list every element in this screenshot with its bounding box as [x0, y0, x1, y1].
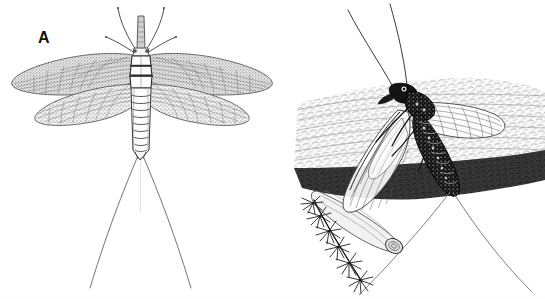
eye-left	[133, 49, 136, 52]
abdomen	[131, 88, 151, 160]
head	[133, 16, 149, 56]
panel-b-illustration	[280, 0, 545, 299]
cercus-right	[144, 158, 191, 288]
antenna-right	[390, 4, 408, 96]
thorax	[130, 56, 153, 88]
cercus-right	[453, 192, 532, 292]
figure-container: A	[0, 0, 545, 299]
cercus-left	[90, 158, 137, 288]
panel-a-label: A	[38, 30, 50, 46]
panel-b: B	[280, 0, 545, 299]
eye-right	[145, 49, 148, 52]
bottom-margin	[0, 295, 545, 299]
cerci	[90, 157, 191, 288]
panel-a: A	[0, 0, 280, 299]
